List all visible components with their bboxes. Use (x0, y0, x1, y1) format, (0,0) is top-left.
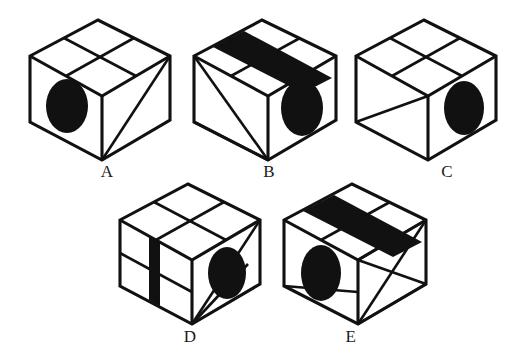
cube-option-e[interactable] (276, 176, 441, 336)
cube-option-d[interactable] (112, 176, 272, 336)
ellipse-marking (444, 81, 484, 135)
cube-option-a[interactable] (22, 12, 182, 172)
ellipse-marking (208, 247, 246, 299)
cube-figure-panel: A B C (0, 0, 526, 364)
ellipse-marking (301, 245, 341, 301)
cube-option-c[interactable] (348, 12, 508, 172)
ellipse-marking (46, 79, 88, 133)
cube-label-d: D (177, 327, 203, 347)
cube-label-e: E (338, 327, 364, 347)
cube-option-b[interactable] (186, 12, 351, 172)
black-bar-marking (149, 236, 160, 306)
ellipse-marking (281, 80, 323, 136)
